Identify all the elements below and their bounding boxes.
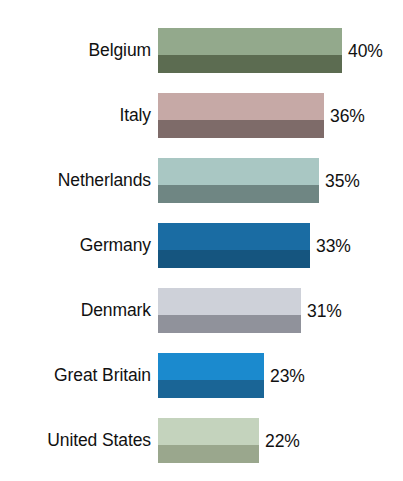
bar-category-label: Belgium <box>6 40 151 61</box>
bar-segment-top <box>158 223 310 250</box>
bar-category-label: Netherlands <box>6 170 151 191</box>
bar <box>158 353 264 398</box>
bar <box>158 418 259 463</box>
bar-value-label: 36% <box>330 105 365 126</box>
bar-row: Netherlands35% <box>0 158 403 203</box>
bar-segment-top <box>158 288 301 315</box>
bar-category-label: Denmark <box>6 300 151 321</box>
bar <box>158 93 324 138</box>
bar-wrapper <box>158 418 259 463</box>
bar-segment-top <box>158 28 342 55</box>
bar-segment-bottom <box>158 185 319 203</box>
bar-segment-bottom <box>158 55 342 73</box>
bar-segment-bottom <box>158 315 301 333</box>
bar-segment-top <box>158 158 319 185</box>
horizontal-bar-chart: Belgium40%Italy36%Netherlands35%Germany3… <box>0 0 403 481</box>
bar-row: Italy36% <box>0 93 403 138</box>
bar-category-label: Germany <box>6 235 151 256</box>
bar-segment-bottom <box>158 250 310 268</box>
bar-category-label: United States <box>6 430 151 451</box>
bar <box>158 223 310 268</box>
bar-value-label: 33% <box>316 235 351 256</box>
bar-wrapper <box>158 353 264 398</box>
bar-value-label: 40% <box>348 40 383 61</box>
bar-segment-bottom <box>158 380 264 398</box>
bar-value-label: 35% <box>325 170 360 191</box>
bar-segment-top <box>158 418 259 445</box>
bar-segment-top <box>158 93 324 120</box>
bar-value-label: 23% <box>270 365 305 386</box>
bar-value-label: 22% <box>265 430 300 451</box>
bar-segment-bottom <box>158 120 324 138</box>
bar <box>158 288 301 333</box>
bar-wrapper <box>158 28 342 73</box>
bar-wrapper <box>158 158 319 203</box>
bar <box>158 28 342 73</box>
bar-row: United States22% <box>0 418 403 463</box>
bar-row: Belgium40% <box>0 28 403 73</box>
bar-row: Denmark31% <box>0 288 403 333</box>
bar-wrapper <box>158 288 301 333</box>
bar <box>158 158 319 203</box>
bar-wrapper <box>158 93 324 138</box>
bar-category-label: Great Britain <box>6 365 151 386</box>
bar-category-label: Italy <box>6 105 151 126</box>
bar-wrapper <box>158 223 310 268</box>
bar-value-label: 31% <box>307 300 342 321</box>
bar-segment-bottom <box>158 445 259 463</box>
bar-row: Great Britain23% <box>0 353 403 398</box>
bar-row: Germany33% <box>0 223 403 268</box>
bar-segment-top <box>158 353 264 380</box>
